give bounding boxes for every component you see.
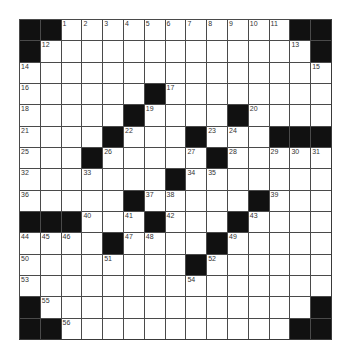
letter-cell[interactable] [81,40,102,61]
letter-cell[interactable] [61,62,82,83]
letter-cell[interactable] [227,168,248,189]
letter-cell[interactable] [102,168,123,189]
letter-cell[interactable]: 41 [123,211,144,232]
letter-cell[interactable] [248,83,269,104]
letter-cell[interactable]: 48 [144,232,165,253]
letter-cell[interactable] [289,275,310,296]
letter-cell[interactable] [144,126,165,147]
letter-cell[interactable] [227,40,248,61]
letter-cell[interactable] [40,83,61,104]
letter-cell[interactable]: 40 [81,211,102,232]
letter-cell[interactable] [81,104,102,125]
letter-cell[interactable] [206,296,227,317]
letter-cell[interactable] [102,62,123,83]
letter-cell[interactable]: 13 [289,40,310,61]
letter-cell[interactable]: 8 [206,19,227,40]
letter-cell[interactable] [206,318,227,339]
letter-cell[interactable] [185,190,206,211]
letter-cell[interactable]: 53 [19,275,40,296]
letter-cell[interactable]: 44 [19,232,40,253]
letter-cell[interactable]: 34 [185,168,206,189]
letter-cell[interactable]: 25 [19,147,40,168]
letter-cell[interactable] [227,296,248,317]
letter-cell[interactable]: 21 [19,126,40,147]
letter-cell[interactable] [185,211,206,232]
letter-cell[interactable] [206,211,227,232]
letter-cell[interactable] [206,190,227,211]
letter-cell[interactable] [310,168,331,189]
letter-cell[interactable] [81,296,102,317]
letter-cell[interactable]: 55 [40,296,61,317]
letter-cell[interactable] [165,126,186,147]
letter-cell[interactable]: 10 [248,19,269,40]
letter-cell[interactable] [123,83,144,104]
letter-cell[interactable] [61,275,82,296]
letter-cell[interactable] [310,232,331,253]
letter-cell[interactable] [40,275,61,296]
letter-cell[interactable] [144,318,165,339]
letter-cell[interactable] [40,168,61,189]
letter-cell[interactable] [165,40,186,61]
letter-cell[interactable] [81,83,102,104]
letter-cell[interactable] [269,296,290,317]
letter-cell[interactable]: 32 [19,168,40,189]
letter-cell[interactable]: 19 [144,104,165,125]
letter-cell[interactable]: 1 [61,19,82,40]
letter-cell[interactable] [289,254,310,275]
letter-cell[interactable] [248,126,269,147]
letter-cell[interactable]: 30 [289,147,310,168]
letter-cell[interactable]: 47 [123,232,144,253]
letter-cell[interactable] [81,62,102,83]
letter-cell[interactable] [102,318,123,339]
letter-cell[interactable] [310,275,331,296]
letter-cell[interactable] [248,168,269,189]
letter-cell[interactable]: 2 [81,19,102,40]
letter-cell[interactable] [206,40,227,61]
letter-cell[interactable] [289,190,310,211]
letter-cell[interactable] [310,83,331,104]
letter-cell[interactable]: 23 [206,126,227,147]
letter-cell[interactable] [123,296,144,317]
letter-cell[interactable] [61,83,82,104]
letter-cell[interactable]: 17 [165,83,186,104]
letter-cell[interactable]: 39 [269,190,290,211]
letter-cell[interactable] [165,275,186,296]
letter-cell[interactable] [227,83,248,104]
letter-cell[interactable]: 26 [102,147,123,168]
letter-cell[interactable]: 15 [310,62,331,83]
letter-cell[interactable] [165,232,186,253]
letter-cell[interactable]: 49 [227,232,248,253]
letter-cell[interactable] [40,254,61,275]
letter-cell[interactable] [61,104,82,125]
letter-cell[interactable] [40,104,61,125]
letter-cell[interactable] [227,190,248,211]
letter-cell[interactable] [269,211,290,232]
letter-cell[interactable]: 51 [102,254,123,275]
letter-cell[interactable] [248,147,269,168]
letter-cell[interactable] [61,190,82,211]
letter-cell[interactable] [123,254,144,275]
letter-cell[interactable] [102,40,123,61]
letter-cell[interactable] [185,83,206,104]
letter-cell[interactable] [269,318,290,339]
letter-cell[interactable] [81,190,102,211]
letter-cell[interactable]: 45 [40,232,61,253]
letter-cell[interactable] [165,296,186,317]
letter-cell[interactable]: 46 [61,232,82,253]
letter-cell[interactable]: 36 [19,190,40,211]
letter-cell[interactable] [289,296,310,317]
letter-cell[interactable] [185,40,206,61]
letter-cell[interactable] [102,296,123,317]
letter-cell[interactable] [144,147,165,168]
letter-cell[interactable] [102,275,123,296]
letter-cell[interactable]: 33 [81,168,102,189]
letter-cell[interactable]: 6 [165,19,186,40]
letter-cell[interactable] [144,168,165,189]
letter-cell[interactable] [81,318,102,339]
letter-cell[interactable] [248,296,269,317]
letter-cell[interactable]: 14 [19,62,40,83]
letter-cell[interactable]: 37 [144,190,165,211]
letter-cell[interactable] [123,168,144,189]
letter-cell[interactable] [227,254,248,275]
letter-cell[interactable] [144,275,165,296]
